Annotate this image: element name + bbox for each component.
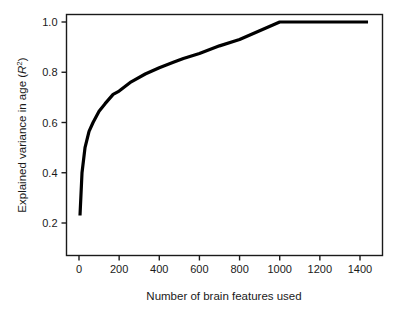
y-tick-label: 0.4 <box>42 167 57 179</box>
x-tick-label: 1400 <box>348 263 372 275</box>
x-tick-label: 1000 <box>267 263 291 275</box>
y-tick-label: 1.0 <box>42 16 57 28</box>
y-axis-title: Explained variance in age (R2) <box>15 57 28 213</box>
chart-figure: 0.20.40.60.81.0 020040060080010001200140… <box>0 0 404 312</box>
x-tick-label: 1200 <box>308 263 332 275</box>
x-axis-title: Number of brain features used <box>146 290 301 302</box>
chart-canvas: 0.20.40.60.81.0 020040060080010001200140… <box>0 0 404 312</box>
x-tick-label: 200 <box>110 263 128 275</box>
svg-text:Explained variance in age (R2): Explained variance in age (R2) <box>15 57 28 213</box>
y-axis-title-symbol: R <box>16 66 28 74</box>
y-axis-title-main: Explained variance in age ( <box>16 74 28 213</box>
x-tick-label: 0 <box>76 263 82 275</box>
x-tick-label: 800 <box>230 263 248 275</box>
y-axis-title-close: ) <box>16 57 28 61</box>
y-tick-label: 0.6 <box>42 117 57 129</box>
x-tick-label: 600 <box>190 263 208 275</box>
y-tick-label: 0.2 <box>42 217 57 229</box>
x-tick-label: 400 <box>150 263 168 275</box>
y-tick-label: 0.8 <box>42 66 57 78</box>
